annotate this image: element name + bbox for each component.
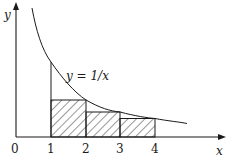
x-tick-3: 3 [116,142,124,156]
rectangle-2-3 [86,112,120,137]
riemann-sum-diagram: y x y = 1/x 0 1 2 3 4 [0,0,230,165]
x-tick-1: 1 [47,142,55,156]
x-axis-arrow-icon [218,134,226,140]
y-axis-arrow-icon [13,2,19,10]
x-tick-4: 4 [151,142,159,156]
rectangle-1-2 [51,100,86,137]
x-axis-label: x [216,144,223,158]
y-axis-label: y [3,8,11,22]
x-tick-2: 2 [82,142,90,156]
curve-label: y = 1/x [65,69,109,83]
hatched-rectangles [51,100,155,137]
rectangle-3-4 [120,119,155,138]
x-tick-0: 0 [11,142,19,156]
